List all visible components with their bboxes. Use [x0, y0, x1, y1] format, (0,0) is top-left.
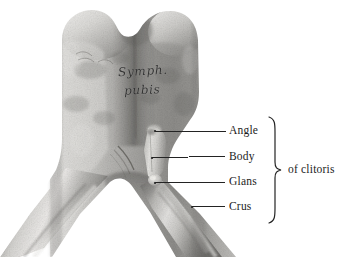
label-of-clitoris: of clitoris: [288, 163, 335, 175]
leader-line-body: [152, 156, 226, 158]
label-glans: Glans: [229, 175, 257, 187]
label-body: Body: [229, 150, 255, 162]
leader-line-crus: [192, 206, 226, 207]
label-crus: Crus: [229, 200, 252, 212]
label-angle: Angle: [229, 124, 258, 136]
anatomical-plate: Symph. pubis Angle Body Glans Crus of cl…: [0, 0, 344, 257]
grouping-brace: [268, 116, 282, 224]
leader-lines: [0, 0, 344, 257]
leader-line-glans: [155, 182, 226, 183]
